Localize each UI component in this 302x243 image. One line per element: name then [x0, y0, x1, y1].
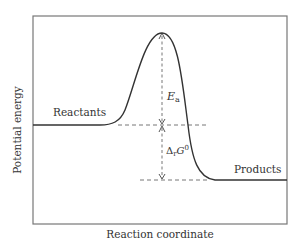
activation-energy-label: Ea [166, 90, 180, 104]
delta-g-label: ΔrG0 [166, 144, 189, 158]
x-axis-label: Reaction coordinate [106, 228, 213, 240]
ea-symbol: E [166, 90, 175, 103]
delta-g-main: G [177, 145, 185, 156]
reactants-label: Reactants [53, 106, 106, 118]
energy-diagram: Reactants Products Ea ΔrG0 Reaction coor… [0, 0, 302, 243]
delta-symbol: Δ [166, 145, 173, 156]
ea-subscript: a [175, 95, 180, 104]
delta-superscript: 0 [185, 144, 189, 152]
products-label: Products [234, 163, 281, 175]
y-axis-label: Potential energy [11, 86, 23, 174]
